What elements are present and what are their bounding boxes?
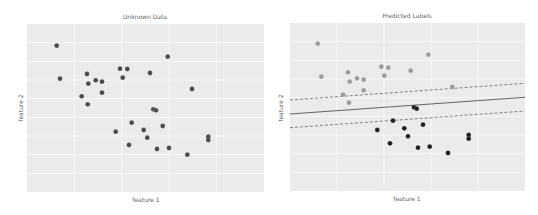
data-point: [58, 76, 63, 81]
data-point: [414, 106, 419, 111]
data-point: [125, 67, 130, 72]
data-point: [408, 68, 413, 73]
data-point: [167, 146, 172, 151]
data-point: [379, 64, 384, 69]
data-point: [347, 100, 352, 105]
data-point: [386, 65, 391, 70]
data-point: [155, 147, 160, 152]
data-point: [85, 72, 90, 77]
data-point: [388, 141, 393, 146]
data-point: [466, 136, 471, 141]
data-point: [154, 108, 159, 113]
data-point: [120, 75, 125, 80]
data-point: [382, 73, 387, 78]
left-x-axis-label: feature 1: [132, 196, 159, 203]
data-point: [346, 70, 351, 75]
data-point: [427, 144, 432, 149]
chart-canvas: [0, 0, 538, 215]
data-point: [118, 66, 123, 71]
data-point: [85, 102, 90, 107]
data-point: [165, 54, 170, 59]
data-point: [347, 79, 352, 84]
data-point: [185, 152, 190, 157]
data-point: [421, 122, 426, 127]
data-point: [160, 124, 165, 129]
data-point: [129, 120, 134, 125]
data-point: [206, 138, 211, 143]
data-point: [315, 41, 320, 46]
data-point: [402, 126, 407, 131]
data-point: [450, 85, 455, 90]
data-point: [86, 81, 91, 86]
right-y-axis-label: feature 2: [277, 94, 284, 121]
right-x-axis-label: feature 1: [393, 195, 420, 202]
data-point: [406, 134, 411, 139]
data-point: [145, 135, 150, 140]
data-point: [54, 43, 59, 48]
data-point: [375, 128, 380, 133]
data-point: [361, 77, 366, 82]
plot-area: [27, 24, 264, 192]
data-point: [426, 52, 431, 57]
left-y-axis-label: feature 2: [17, 94, 24, 121]
data-point: [341, 92, 346, 97]
data-point: [100, 79, 105, 84]
data-point: [319, 74, 324, 79]
data-point: [127, 143, 132, 148]
data-point: [148, 71, 153, 76]
data-point: [100, 90, 105, 95]
data-point: [79, 94, 84, 99]
data-point: [391, 118, 396, 123]
data-point: [355, 76, 360, 81]
data-point: [113, 129, 118, 134]
data-point: [190, 87, 195, 92]
left-chart-title: Unknown Data: [123, 13, 167, 20]
data-point: [141, 128, 146, 133]
data-point: [93, 78, 98, 83]
data-point: [416, 145, 421, 150]
data-point: [361, 88, 366, 93]
data-point: [446, 151, 451, 156]
right-chart-title: Predicted Labels: [382, 12, 431, 19]
plot-area: [290, 23, 525, 191]
